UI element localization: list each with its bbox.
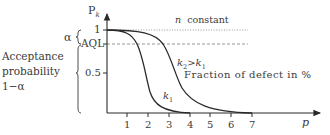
- n-constant-label: n constant: [175, 12, 229, 27]
- one-minus-alpha-label: 1−α: [2, 79, 25, 94]
- acceptance-brace: [76, 45, 81, 113]
- xtick-label-4: 4: [187, 117, 193, 132]
- k1-label: k1: [163, 88, 173, 108]
- xtick-label-3: 3: [166, 117, 172, 132]
- x-axis-label: p: [302, 115, 309, 130]
- xtick-label-7: 7: [249, 117, 255, 132]
- xtick-label-1: 1: [124, 117, 130, 132]
- y-axis-label: Pk: [88, 3, 100, 23]
- acceptance-label: Acceptance: [2, 49, 64, 64]
- xtick-label-5: 5: [207, 117, 213, 132]
- fraction-defect-label: Fraction of defect in %: [184, 67, 312, 82]
- ytick-label-aql: AQL: [81, 36, 104, 51]
- alpha-label: α: [64, 30, 71, 45]
- probability-label: probability: [2, 64, 60, 79]
- xtick-label-2: 2: [145, 117, 151, 132]
- ytick-label-1: 1: [94, 22, 101, 37]
- ytick-label-half: 0.5: [85, 65, 101, 80]
- xtick-label-6: 6: [228, 117, 234, 132]
